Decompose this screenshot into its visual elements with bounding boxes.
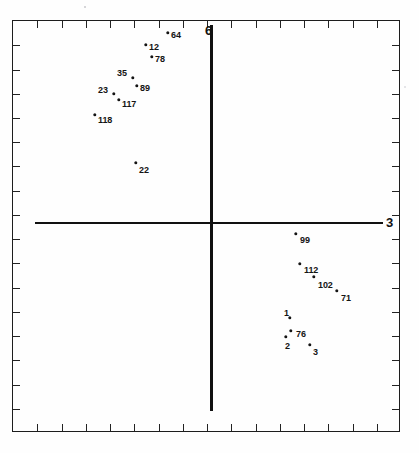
axis-tick-bottom (377, 424, 378, 431)
axis-tick-bottom (37, 424, 38, 431)
axis-tick-left (13, 409, 20, 410)
axis-tick-top (37, 21, 38, 28)
axis-tick-bottom (159, 424, 160, 431)
axis-tick-top (86, 21, 87, 28)
axis-tick-left (13, 166, 20, 167)
data-point-label: 1 (284, 309, 289, 318)
data-point-label: 3 (313, 348, 318, 357)
axis-tick-left (13, 239, 20, 240)
axis-tick-left (13, 288, 20, 289)
data-point-label: 12 (149, 43, 159, 52)
axis-tick-left (13, 336, 20, 337)
axis-tick-right (392, 385, 399, 386)
axis-tick-top (159, 21, 160, 28)
axis-tick-left (13, 94, 20, 95)
axis-tick-bottom (110, 424, 111, 431)
axis-tick-bottom (256, 424, 257, 431)
axis-tick-right (392, 239, 399, 240)
plot-frame (12, 20, 400, 432)
axis-tick-left (13, 70, 20, 71)
data-point-label: 117 (122, 100, 136, 109)
data-point-label: 22 (139, 166, 149, 175)
axis-tick-right (392, 409, 399, 410)
axis-tick-bottom (231, 424, 232, 431)
axis-tick-right (392, 312, 399, 313)
axis-tick-right (392, 288, 399, 289)
data-point-label: 76 (296, 330, 306, 339)
scan-speck-secondary-icon (404, 86, 406, 88)
axis-tick-right (392, 166, 399, 167)
axis-tick-right (392, 360, 399, 361)
axis-tick-left (13, 385, 20, 386)
scatter-plot-figure: 6 3 64127835892311711822991121027117623 (0, 0, 419, 453)
data-point-label: 23 (98, 86, 108, 95)
axis-tick-left (13, 191, 20, 192)
axis-tick-left (13, 142, 20, 143)
axis-tick-left (13, 263, 20, 264)
data-point-label: 102 (318, 281, 333, 290)
data-point-label: 78 (155, 55, 165, 64)
axis-tick-top (134, 21, 135, 28)
axis-tick-top (183, 21, 184, 28)
scan-header-text (136, 0, 288, 4)
axis-tick-top (377, 21, 378, 28)
axis-tick-top (110, 21, 111, 28)
data-point-label: 35 (117, 69, 127, 78)
axis-tick-bottom (62, 424, 63, 431)
axis-tick-bottom (280, 424, 281, 431)
axis-tick-right (392, 45, 399, 46)
axis-tick-top (62, 21, 63, 28)
horizontal-axis-line (35, 222, 383, 224)
vertical-axis-label: 6 (205, 24, 212, 37)
axis-tick-bottom (328, 424, 329, 431)
axis-tick-top (353, 21, 354, 28)
data-point-label: 2 (285, 342, 290, 351)
axis-tick-right (392, 94, 399, 95)
data-point-label: 64 (171, 31, 181, 40)
axis-tick-top (231, 21, 232, 28)
axis-tick-top (304, 21, 305, 28)
axis-tick-bottom (183, 424, 184, 431)
data-point-label: 71 (341, 294, 351, 303)
vertical-axis-line (210, 25, 213, 411)
axis-tick-right (392, 70, 399, 71)
axis-tick-left (13, 215, 20, 216)
scan-speck-icon (84, 6, 86, 8)
axis-tick-top (256, 21, 257, 28)
axis-tick-top (328, 21, 329, 28)
data-point-label: 112 (304, 266, 318, 275)
axis-tick-right (392, 142, 399, 143)
axis-tick-left (13, 118, 20, 119)
axis-tick-right (392, 336, 399, 337)
data-point-label: 118 (98, 116, 112, 125)
axis-tick-left (13, 45, 20, 46)
axis-tick-right (392, 118, 399, 119)
axis-tick-bottom (207, 424, 208, 431)
axis-tick-bottom (353, 424, 354, 431)
axis-tick-right (392, 263, 399, 264)
axis-tick-left (13, 360, 20, 361)
axis-tick-bottom (304, 424, 305, 431)
axis-tick-bottom (134, 424, 135, 431)
data-point-label: 89 (140, 84, 150, 93)
horizontal-axis-label: 3 (386, 216, 393, 229)
axis-tick-right (392, 191, 399, 192)
axis-tick-top (280, 21, 281, 28)
axis-tick-left (13, 312, 20, 313)
data-point-label: 99 (300, 236, 310, 245)
axis-tick-bottom (86, 424, 87, 431)
